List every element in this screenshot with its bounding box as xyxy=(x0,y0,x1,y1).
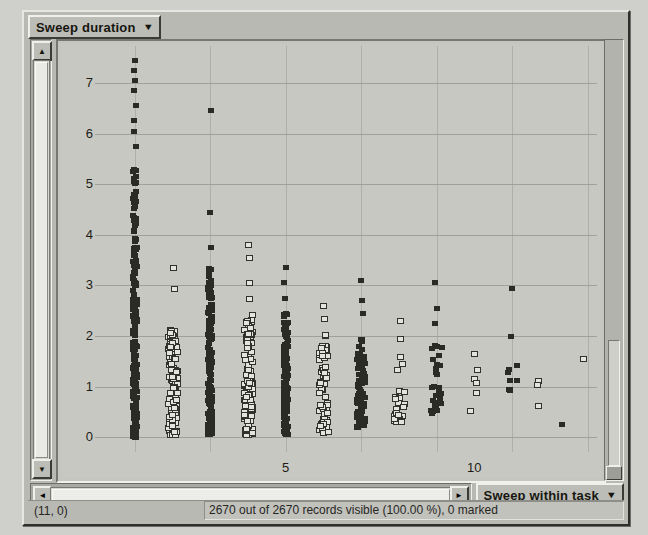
data-point[interactable] xyxy=(249,430,256,436)
data-point[interactable] xyxy=(133,403,139,408)
data-point[interactable] xyxy=(359,372,365,377)
data-point[interactable] xyxy=(132,375,138,380)
vertical-scroll-trough[interactable] xyxy=(33,60,50,460)
data-point[interactable] xyxy=(281,415,287,420)
data-point[interactable] xyxy=(434,372,440,377)
data-point[interactable] xyxy=(130,297,136,302)
data-point[interactable] xyxy=(324,410,331,416)
data-point[interactable] xyxy=(245,367,252,373)
data-point[interactable] xyxy=(133,144,139,149)
data-point[interactable] xyxy=(285,320,291,325)
data-point[interactable] xyxy=(131,88,137,93)
data-point[interactable] xyxy=(359,298,365,303)
data-point[interactable] xyxy=(321,370,328,376)
data-point[interactable] xyxy=(208,245,214,250)
data-point[interactable] xyxy=(507,378,513,383)
data-point[interactable] xyxy=(284,403,290,408)
data-point[interactable] xyxy=(320,303,327,309)
data-point[interactable] xyxy=(131,228,137,233)
data-point[interactable] xyxy=(399,361,406,367)
data-point[interactable] xyxy=(131,253,137,258)
data-point[interactable] xyxy=(245,242,252,248)
data-point[interactable] xyxy=(467,408,474,414)
data-point[interactable] xyxy=(246,380,253,386)
data-point[interactable] xyxy=(534,382,541,388)
data-point[interactable] xyxy=(356,361,362,366)
data-point[interactable] xyxy=(360,311,366,316)
vertical-scroll-thumb[interactable] xyxy=(35,62,48,458)
data-point[interactable] xyxy=(281,312,287,317)
data-point[interactable] xyxy=(283,333,289,338)
data-point[interactable] xyxy=(245,331,252,337)
data-point[interactable] xyxy=(167,390,174,396)
data-point[interactable] xyxy=(282,342,288,347)
data-point[interactable] xyxy=(317,380,324,386)
data-point[interactable] xyxy=(397,354,404,360)
data-point[interactable] xyxy=(167,344,174,350)
data-point[interactable] xyxy=(514,378,520,383)
data-point[interactable] xyxy=(248,404,255,410)
data-point[interactable] xyxy=(471,351,478,357)
data-point[interactable] xyxy=(132,325,138,330)
data-point[interactable] xyxy=(169,374,176,380)
data-point[interactable] xyxy=(131,270,137,275)
data-point[interactable] xyxy=(130,288,136,293)
scroll-down-button[interactable]: ▼ xyxy=(32,459,52,479)
data-point[interactable] xyxy=(392,396,399,402)
data-point[interactable] xyxy=(282,428,288,433)
data-point[interactable] xyxy=(325,429,332,435)
data-point[interactable] xyxy=(398,419,405,425)
data-point[interactable] xyxy=(362,361,368,366)
data-point[interactable] xyxy=(133,103,139,108)
data-point[interactable] xyxy=(432,280,438,285)
data-point[interactable] xyxy=(208,415,214,420)
data-point[interactable] xyxy=(205,425,211,430)
data-point[interactable] xyxy=(394,367,401,373)
data-point[interactable] xyxy=(206,318,212,323)
data-point[interactable] xyxy=(397,318,404,324)
data-point[interactable] xyxy=(430,357,436,362)
data-point[interactable] xyxy=(167,330,174,336)
data-point[interactable] xyxy=(580,356,587,362)
data-point[interactable] xyxy=(436,353,442,358)
data-point[interactable] xyxy=(243,320,250,326)
data-point[interactable] xyxy=(436,385,442,390)
data-point[interactable] xyxy=(133,363,139,368)
data-point[interactable] xyxy=(322,332,329,338)
data-point[interactable] xyxy=(131,118,137,123)
data-point[interactable] xyxy=(317,423,324,429)
data-point[interactable] xyxy=(131,351,137,356)
data-point[interactable] xyxy=(355,351,361,356)
data-point[interactable] xyxy=(559,422,565,427)
data-point[interactable] xyxy=(208,360,214,365)
data-point[interactable] xyxy=(208,403,214,408)
data-point[interactable] xyxy=(244,345,251,351)
data-point[interactable] xyxy=(131,381,137,386)
plot-area[interactable]: 01234567510 xyxy=(61,44,601,478)
data-point[interactable] xyxy=(321,316,328,322)
data-point[interactable] xyxy=(244,340,251,346)
data-point[interactable] xyxy=(171,429,178,435)
data-point[interactable] xyxy=(507,387,513,392)
data-point[interactable] xyxy=(174,349,181,355)
data-point[interactable] xyxy=(206,295,212,300)
data-point[interactable] xyxy=(282,389,288,394)
data-point[interactable] xyxy=(208,388,214,393)
data-point[interactable] xyxy=(282,353,288,358)
data-point[interactable] xyxy=(131,68,137,73)
y-variable-dropdown[interactable]: Sweep duration ▼ xyxy=(28,15,161,39)
data-point[interactable] xyxy=(170,265,177,271)
data-point[interactable] xyxy=(535,403,542,409)
data-point[interactable] xyxy=(283,326,289,331)
data-point[interactable] xyxy=(131,206,137,211)
data-point[interactable] xyxy=(433,404,439,409)
data-point[interactable] xyxy=(437,363,443,368)
data-point[interactable] xyxy=(282,296,288,301)
data-point[interactable] xyxy=(133,174,139,179)
data-point[interactable] xyxy=(132,168,138,173)
data-point[interactable] xyxy=(133,281,139,286)
data-point[interactable] xyxy=(131,416,137,421)
data-point[interactable] xyxy=(173,369,180,375)
data-point[interactable] xyxy=(206,325,212,330)
data-point[interactable] xyxy=(207,333,213,338)
